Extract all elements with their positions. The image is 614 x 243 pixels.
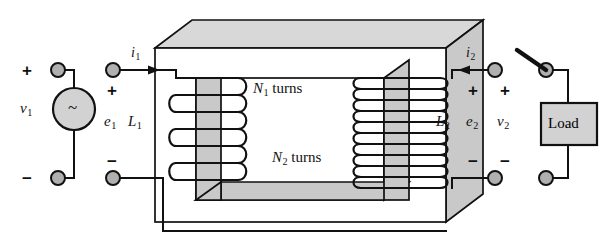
secondary-emf-label: e2: [466, 114, 478, 131]
terminal-secondary-bottom[interactable]: [488, 171, 502, 185]
terminal-secondary-top[interactable]: [488, 63, 502, 77]
secondary-emf-plus-sign: +: [468, 82, 478, 99]
circuit-schematic: [0, 0, 614, 243]
primary-emf-label: e1: [104, 114, 116, 131]
primary-turns-label: N1 turns: [253, 81, 302, 98]
switch-blade[interactable]: [517, 50, 546, 70]
terminal-source-bottom[interactable]: [51, 171, 65, 185]
ac-source-tilde-glyph: ~: [68, 99, 77, 116]
load-minus-sign: −: [500, 153, 510, 170]
load-label: Load: [548, 116, 579, 131]
core-right-leg: [384, 78, 409, 200]
secondary-turns-label: N2 turns: [272, 150, 321, 167]
source-voltage-label: v1: [20, 101, 32, 118]
terminal-load-bottom[interactable]: [539, 171, 553, 185]
source-minus-sign: −: [22, 170, 32, 187]
secondary-emf-minus-sign: −: [468, 153, 478, 170]
primary-inductance-label: L1: [128, 114, 142, 131]
core-top-face: [155, 20, 483, 48]
terminal-source-top[interactable]: [51, 63, 65, 77]
secondary-inductance-label: L2: [436, 114, 450, 131]
terminal-primary-top[interactable]: [106, 63, 120, 77]
secondary-current-label: i2: [466, 46, 475, 62]
primary-port-plus-sign: +: [107, 82, 117, 99]
terminal-primary-bottom[interactable]: [106, 171, 120, 185]
core-left-leg: [196, 78, 221, 200]
primary-current-label: i1: [131, 46, 140, 62]
load-plus-sign: +: [500, 82, 510, 99]
transformer-figure: + − v1 ~ + − e1 L1 i1 N1 turns N2 turns …: [0, 0, 614, 243]
source-plus-sign: +: [22, 62, 32, 79]
primary-port-minus-sign: −: [107, 153, 117, 170]
secondary-voltage-label: v2: [497, 114, 509, 131]
core-window-bottom-inner-face: [196, 182, 409, 200]
